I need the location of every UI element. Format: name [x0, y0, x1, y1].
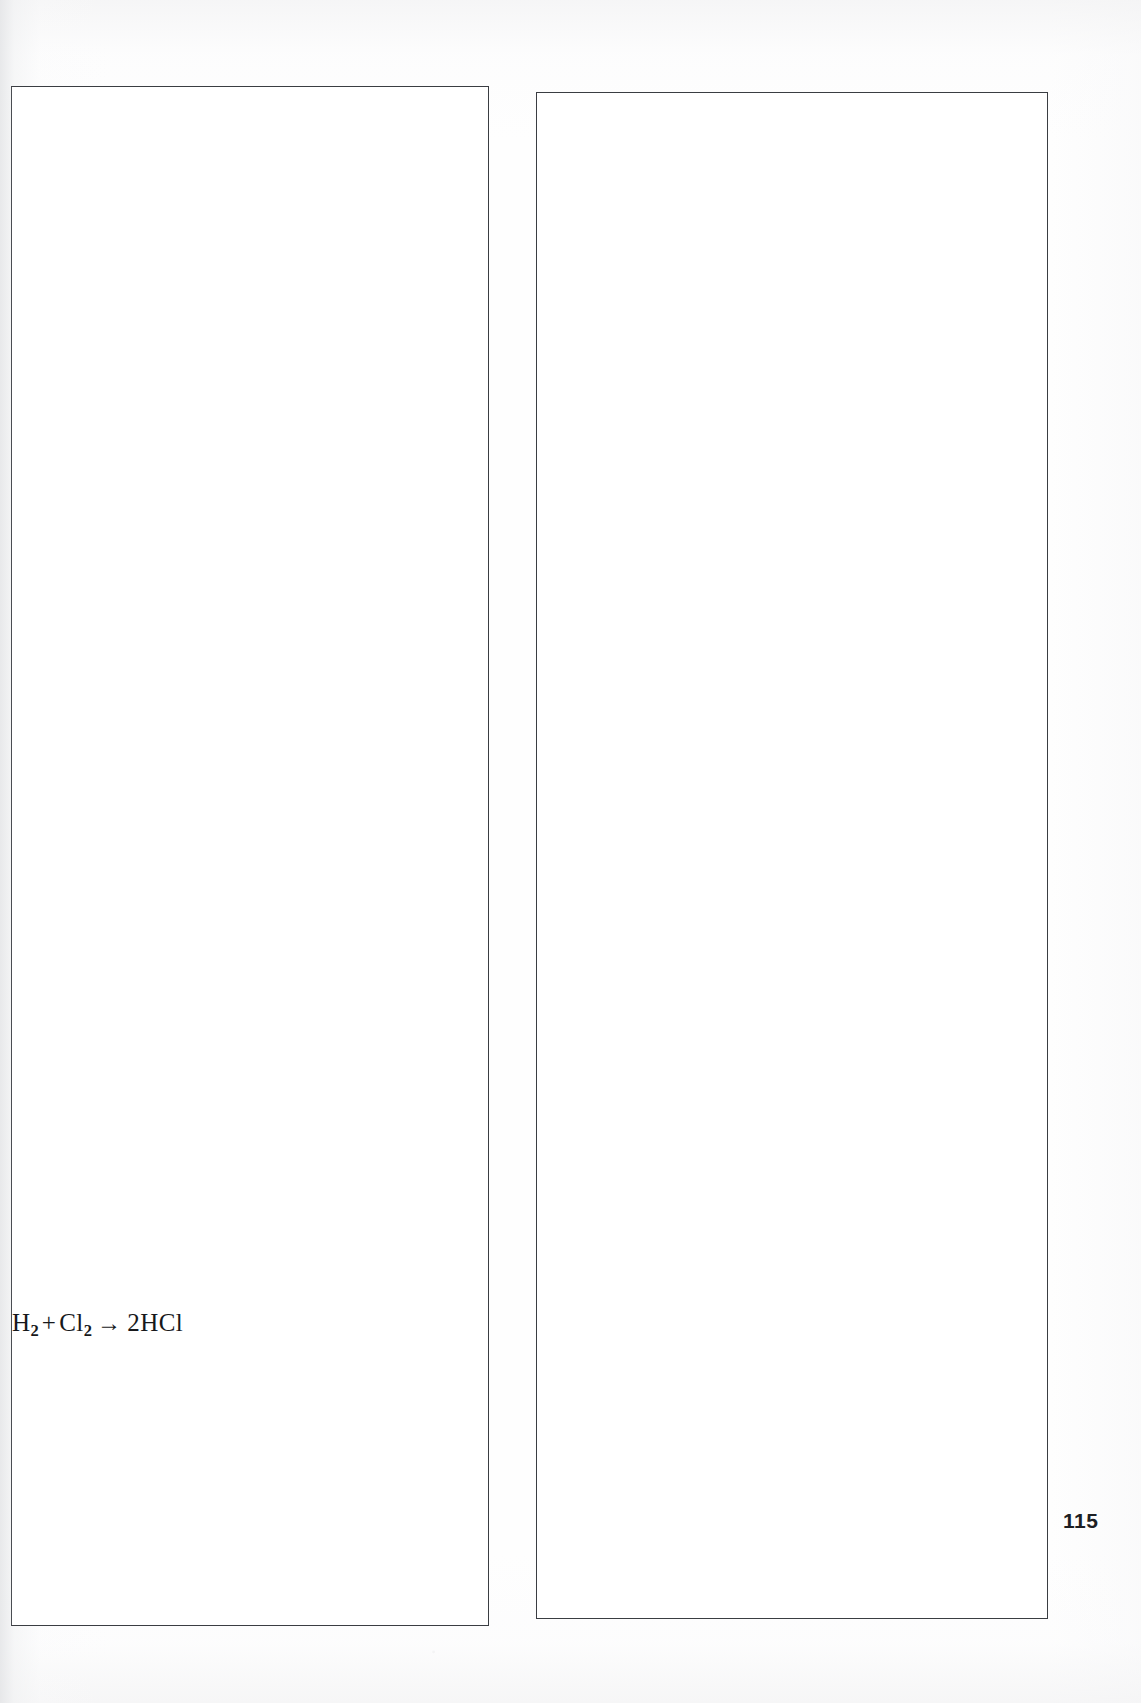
- equation-product-coefficient: 2: [127, 1309, 140, 1336]
- equation-reactant-hydrogen: H2: [12, 1309, 39, 1336]
- equation-arrow-icon: →: [92, 1310, 127, 1336]
- equation-reactant-chlorine: Cl2: [59, 1309, 92, 1336]
- page-number: 115: [1063, 1509, 1098, 1533]
- equation-product-symbol: HCl: [140, 1309, 183, 1336]
- scanned-page: H2+Cl2→2HCl 115: [0, 0, 1141, 1703]
- text-column-right: [536, 92, 1048, 1619]
- equation-reactant-chlorine-symbol: Cl: [59, 1309, 83, 1336]
- equation-plus-operator: +: [39, 1309, 60, 1336]
- chemical-equation: H2+Cl2→2HCl: [12, 1308, 183, 1338]
- equation-reactant-hydrogen-subscript: 2: [30, 1321, 38, 1340]
- text-column-left: [11, 86, 489, 1626]
- equation-reactant-chlorine-subscript: 2: [84, 1321, 92, 1340]
- equation-product-hydrogen-chloride: 2HCl: [127, 1309, 183, 1336]
- equation-reactant-hydrogen-symbol: H: [12, 1309, 30, 1336]
